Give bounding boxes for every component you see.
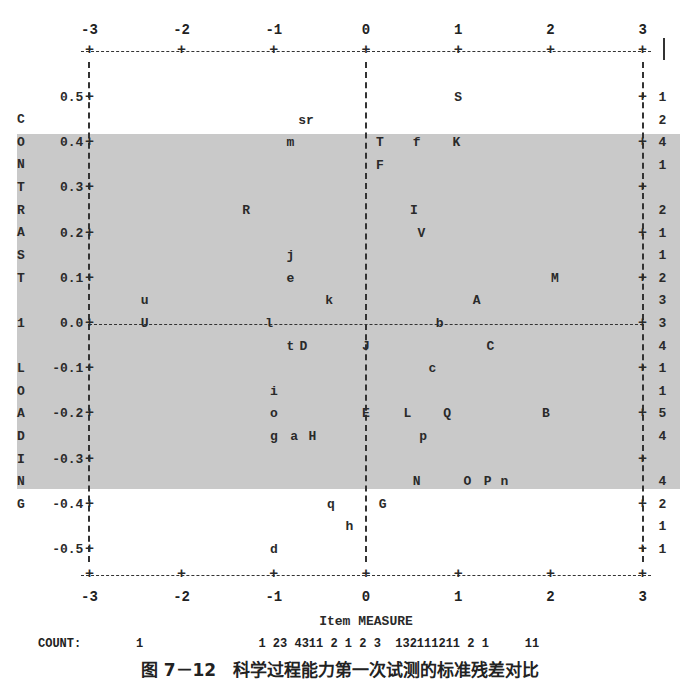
data-point-J: J	[362, 340, 370, 354]
row-count: 1	[659, 520, 667, 534]
y-tick-mark: +	[85, 317, 94, 331]
count-label: COUNT:	[38, 637, 81, 651]
y-tick-mark-right: +	[638, 362, 647, 376]
x-tick-mark: +	[269, 568, 278, 582]
data-point-g: g	[270, 430, 278, 444]
data-point-o: o	[270, 407, 278, 421]
y-tick-mark: +	[85, 91, 94, 105]
data-point-M: M	[551, 272, 559, 286]
row-count: 1	[659, 362, 667, 376]
x-tick-mark: +	[177, 44, 186, 58]
row-count: 4	[659, 475, 667, 489]
row-count: 1	[659, 543, 667, 557]
data-point-I: I	[410, 204, 418, 218]
y-tick-label: -0.3	[52, 453, 83, 467]
data-point-P: P	[484, 475, 492, 489]
y-tick-label: 0.5	[60, 91, 83, 105]
y-axis-label-letter: A	[17, 226, 25, 240]
data-point-u: u	[141, 294, 149, 308]
y-tick-label: -0.5	[52, 543, 83, 557]
y-tick-mark-right: +	[638, 91, 647, 105]
row-count: 2	[659, 498, 667, 512]
y-tick-mark-right: +	[638, 272, 647, 286]
data-point-H: H	[309, 430, 317, 444]
data-point-h: h	[345, 520, 353, 534]
x-tick-label-bottom: -1	[265, 589, 282, 605]
data-point-t: t	[286, 340, 294, 354]
y-axis-label-letter: R	[17, 204, 25, 218]
y-tick-mark: +	[85, 136, 94, 150]
x-tick-label-top: -2	[173, 22, 190, 38]
y-axis-label-letter: 1	[17, 317, 25, 331]
data-point-L: L	[404, 407, 412, 421]
x-tick-label-top: -1	[265, 22, 282, 38]
x-tick-mark: +	[638, 44, 647, 58]
x-tick-mark: +	[85, 44, 94, 58]
row-count: 2	[659, 204, 667, 218]
data-point-N: N	[413, 475, 421, 489]
figure-caption: 图 7－12 科学过程能力第一次试测的标准残差对比	[0, 656, 680, 681]
data-point-b: b	[436, 317, 444, 331]
y-tick-mark: +	[85, 498, 94, 512]
data-point-E: E	[362, 407, 370, 421]
x-tick-label-top: 2	[546, 22, 554, 38]
y-tick-mark-right: +	[638, 136, 647, 150]
data-point-n: n	[500, 475, 508, 489]
y-tick-label: -0.2	[52, 407, 83, 421]
y-tick-mark: +	[85, 407, 94, 421]
y-axis-label-letter: N	[17, 158, 25, 172]
data-point-l: l	[265, 317, 273, 331]
row-count: 2	[659, 114, 667, 128]
row-count: 5	[659, 407, 667, 421]
data-point-p: p	[419, 430, 427, 444]
x-tick-mark: +	[454, 44, 463, 58]
y-tick-mark: +	[85, 453, 94, 467]
data-point-e: e	[286, 272, 294, 286]
data-point-d: d	[270, 543, 278, 557]
data-point-k: k	[325, 294, 333, 308]
data-point-c: c	[428, 362, 436, 376]
x-tick-label-bottom: 1	[454, 589, 462, 605]
y-tick-mark-right: +	[638, 498, 647, 512]
count-values: 1 1 23 4311 2 1 2 3 132111211 2 1 11	[136, 637, 539, 651]
y-axis-label-letter: O	[17, 136, 25, 150]
data-point-U: U	[141, 317, 149, 331]
x-tick-mark: +	[546, 568, 555, 582]
data-point-i: i	[270, 385, 278, 399]
y-axis-label-letter: O	[17, 385, 25, 399]
y-axis-label-letter: N	[17, 475, 25, 489]
data-point-A: A	[473, 294, 481, 308]
row-count: 1	[659, 249, 667, 263]
shaded-band	[17, 134, 680, 489]
x-tick-label-top: 3	[638, 22, 646, 38]
x-tick-mark: +	[638, 568, 647, 582]
y-tick-label: -0.1	[52, 362, 83, 376]
y-tick-mark-right: +	[638, 181, 647, 195]
data-point-S: S	[454, 91, 462, 105]
x-tick-mark: +	[177, 568, 186, 582]
data-point-sr: sr	[298, 114, 314, 128]
x-tick-label-bottom: 2	[546, 589, 554, 605]
row-count: 1	[659, 227, 667, 241]
row-count: 4	[659, 430, 667, 444]
row-count: 4	[659, 340, 667, 354]
x-tick-mark: +	[269, 44, 278, 58]
row-count: 1	[659, 159, 667, 173]
data-point-D: D	[299, 340, 307, 354]
x-axis-label: Item MEASURE	[319, 615, 413, 629]
data-point-G: G	[379, 498, 387, 512]
x-tick-label-bottom: -3	[81, 589, 98, 605]
x-tick-label-bottom: -2	[173, 589, 190, 605]
data-point-Q: Q	[443, 407, 451, 421]
y-tick-mark-right: +	[638, 227, 647, 241]
y-axis-label-letter: I	[17, 453, 25, 467]
y-axis-label-letter: L	[17, 362, 25, 376]
data-point-B: B	[542, 407, 550, 421]
y-axis-label-letter: D	[17, 430, 25, 444]
data-point-O: O	[464, 475, 472, 489]
x-tick-mark: +	[361, 44, 370, 58]
data-point-j: j	[286, 249, 294, 263]
x-tick-mark: +	[361, 568, 370, 582]
y-axis-label-letter: S	[17, 249, 25, 263]
y-tick-label: 0.2	[60, 227, 83, 241]
